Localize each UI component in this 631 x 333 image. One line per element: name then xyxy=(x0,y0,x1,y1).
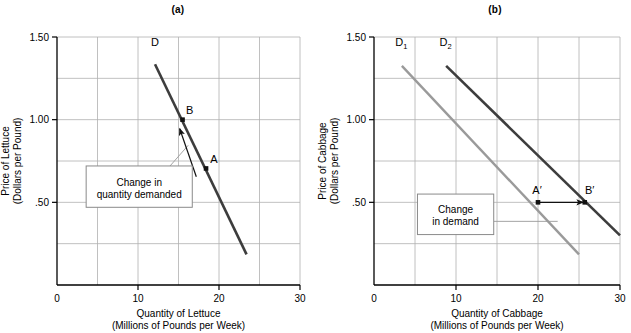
x-axis-title-line2: (Millions of Pounds per Week) xyxy=(430,320,563,331)
panel-a: (a) 1.501.00.500102030Quantity of Lettuc… xyxy=(0,0,316,333)
change-in-quantity-demanded-callout: Change inquantity demanded xyxy=(86,166,192,207)
callout-line2: quantity demanded xyxy=(97,189,182,200)
axis-titles: Quantity of Lettuce(Millions of Pounds p… xyxy=(0,118,245,331)
x-axis-title-line1: Quantity of Lettuce xyxy=(137,308,221,319)
x-tick-label: 0 xyxy=(371,293,377,304)
y-tick-label: .50 xyxy=(352,197,366,208)
y-axis-title-line1: Price of Cabbage xyxy=(317,122,328,200)
point-marker-B-prime[interactable] xyxy=(582,200,587,205)
x-axis-ticks: 0102030 xyxy=(54,285,306,304)
gridlines xyxy=(57,37,300,285)
x-tick-label: 30 xyxy=(294,293,306,304)
x-tick-label: 10 xyxy=(450,293,462,304)
curve-label-subscript: 1 xyxy=(403,42,407,51)
point-marker-A-prime[interactable] xyxy=(536,200,541,205)
panel-b-plot: 1.501.00.500102030Quantity of Cabbage(Mi… xyxy=(315,0,631,333)
change-in-demand-callout: Changein demand xyxy=(417,194,493,235)
callout-line1: Change in xyxy=(116,177,162,188)
x-tick-label: 0 xyxy=(54,293,60,304)
x-tick-label: 30 xyxy=(614,293,626,304)
y-axis-ticks: 1.501.00.50 xyxy=(30,32,57,208)
point-label-B-prime: B′ xyxy=(585,184,594,196)
x-tick-label: 10 xyxy=(132,293,144,304)
y-tick-label: .50 xyxy=(35,197,49,208)
x-axis-title-line2: (Millions of Pounds per Week) xyxy=(112,320,245,331)
y-axis-title-line2: (Dollars per Pound) xyxy=(12,118,23,205)
point-marker-A[interactable] xyxy=(204,166,209,171)
panel-b: (b) 1.501.00.500102030Quantity of Cabbag… xyxy=(315,0,631,333)
y-axis-ticks: 1.501.00.50 xyxy=(347,32,374,208)
x-tick-label: 20 xyxy=(532,293,544,304)
y-tick-label: 1.00 xyxy=(347,114,367,125)
curve-label-subscript: 2 xyxy=(448,42,452,51)
y-tick-label: 1.50 xyxy=(347,32,367,43)
curve-label-D2: D2 xyxy=(440,36,452,51)
y-tick-label: 1.00 xyxy=(30,114,50,125)
callout-line2: in demand xyxy=(432,216,479,227)
curve-label-D: D xyxy=(151,36,159,48)
panel-a-plot: 1.501.00.500102030Quantity of Lettuce(Mi… xyxy=(0,0,316,333)
plot-points: A′B′ xyxy=(532,184,594,204)
figure-root: (a) 1.501.00.500102030Quantity of Lettuc… xyxy=(0,0,631,333)
x-axis-title-line1: Quantity of Cabbage xyxy=(451,308,543,319)
point-label-B: B xyxy=(186,104,193,116)
point-marker-B[interactable] xyxy=(180,117,185,122)
callout-line1: Change xyxy=(438,204,473,215)
point-label-A-prime: A′ xyxy=(532,184,541,196)
curve-label-D1: D1 xyxy=(395,36,407,51)
demand-curve-D[interactable] xyxy=(155,64,247,254)
x-tick-label: 20 xyxy=(213,293,225,304)
demand-curves: D xyxy=(151,36,247,254)
x-axis-ticks: 0102030 xyxy=(371,285,626,304)
y-tick-label: 1.50 xyxy=(30,32,50,43)
y-axis-title-line1: Price of Lettuce xyxy=(0,126,11,196)
y-axis-title-line2: (Dollars per Pound) xyxy=(329,118,340,205)
point-label-A: A xyxy=(210,153,218,165)
